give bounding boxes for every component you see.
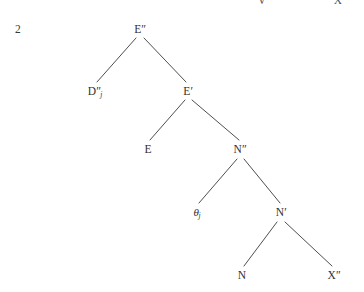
node-base-label: N — [238, 269, 247, 281]
node-base-label: E — [144, 143, 151, 155]
tree-node-n0: N — [238, 270, 247, 282]
tree-diagram-canvas: V X 2 E″ D″j E′ E N″ θj N′ — [0, 0, 364, 292]
tree-node-theta-j: θj — [193, 207, 200, 220]
tree-node-n2: N″ — [233, 144, 246, 156]
node-base-label: N — [276, 206, 285, 218]
edge-n2-to-n1 — [244, 159, 280, 203]
tree-node-e0: E — [144, 144, 151, 156]
edge-n1-to-x2 — [285, 222, 332, 266]
tree-node-e1: E′ — [183, 86, 192, 98]
tree-node-d2-j: D″j — [88, 86, 103, 99]
node-base-label: X — [327, 269, 336, 281]
node-base-label: D — [88, 85, 97, 97]
node-prime-marker: ′ — [284, 206, 286, 218]
edge-e1-to-e0 — [150, 100, 185, 140]
node-prime-marker: ′ — [191, 85, 193, 97]
edge-root-to-e1 — [144, 38, 186, 82]
edge-n2-to-theta — [199, 159, 237, 203]
edge-root-to-d2 — [97, 38, 136, 82]
tree-node-root-e2: E″ — [134, 24, 146, 36]
tree-node-x2: X″ — [327, 270, 340, 282]
node-prime-marker: ″ — [336, 269, 341, 281]
tree-node-n1: N′ — [276, 207, 287, 219]
node-prime-marker: ″ — [141, 23, 146, 35]
edge-e1-to-n2 — [192, 100, 239, 140]
node-prime-marker: ″ — [242, 143, 247, 155]
tree-branch-lines — [0, 0, 364, 292]
node-base-label: N — [233, 143, 242, 155]
node-subscript: j — [100, 90, 102, 99]
node-subscript: j — [199, 211, 201, 220]
edge-n1-to-n0 — [244, 222, 277, 266]
